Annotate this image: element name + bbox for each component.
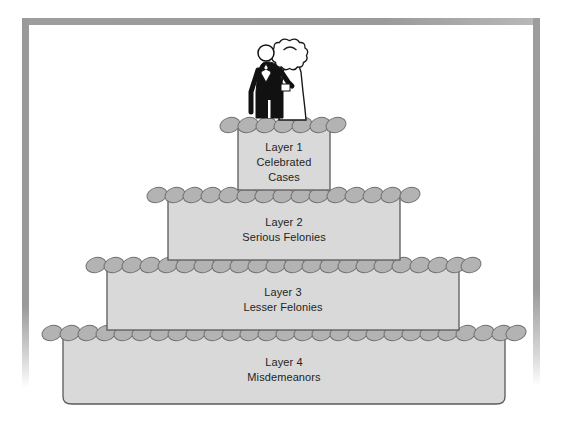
tier-3-shape [84,255,483,330]
tier-2-shape [145,185,422,260]
tier-4-shape [40,323,528,404]
diagram-canvas: Layer 1 Celebrated Cases Layer 2 Serious… [0,0,568,432]
wedding-cake-graphic [0,0,568,432]
wedding-couple-topper [251,39,308,120]
tier-1-shape [218,115,348,190]
